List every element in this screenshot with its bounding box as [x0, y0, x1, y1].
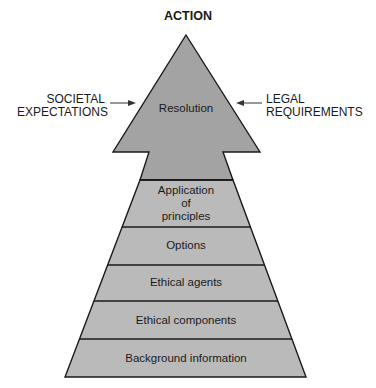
arrow-left-head: [236, 100, 244, 106]
layer-background-information: Background information: [68, 352, 304, 365]
label-line: REQUIREMENTS: [266, 106, 376, 119]
layer-ethical-agents: Ethical agents: [96, 276, 276, 289]
resolution-label: Resolution: [136, 102, 236, 115]
action-title: ACTION: [0, 9, 376, 23]
label-line: principles: [126, 210, 246, 223]
label-line: Application: [126, 184, 246, 197]
layer-options: Options: [110, 239, 262, 252]
arrow-right-head: [128, 100, 136, 106]
layer-application-of-principles: Application of principles: [126, 184, 246, 223]
societal-expectations-label: SOCIETAL EXPECTATIONS: [17, 93, 105, 119]
legal-requirements-label: LEGAL REQUIREMENTS: [266, 93, 376, 119]
label-line: EXPECTATIONS: [17, 106, 105, 119]
label-line: of: [126, 197, 246, 210]
layer-ethical-components: Ethical components: [82, 314, 290, 327]
